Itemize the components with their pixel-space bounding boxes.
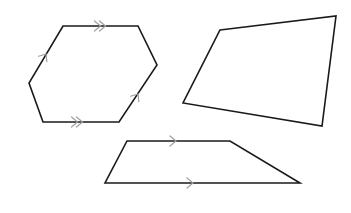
trapezoid-group <box>105 136 300 188</box>
hexagon <box>29 26 157 122</box>
hexagon-group <box>29 21 157 127</box>
hexagon-parallel-marks <box>39 21 139 127</box>
geometry-diagram <box>0 0 351 213</box>
trapezoid-parallel-marks <box>170 136 193 188</box>
quadrilateral <box>183 16 336 126</box>
trapezoid <box>105 141 300 183</box>
quadrilateral-group <box>183 16 336 126</box>
